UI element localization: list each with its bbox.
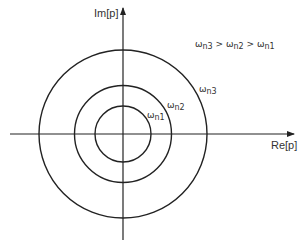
imaginary-axis-label: Im[p] bbox=[94, 7, 118, 19]
label-wn1: ωn1 bbox=[147, 110, 165, 122]
real-axis-label: Re[p] bbox=[271, 139, 297, 151]
pole-plane-diagram bbox=[0, 0, 301, 249]
label-wn3: ωn3 bbox=[199, 84, 217, 96]
label-wn2: ωn2 bbox=[167, 100, 185, 112]
frequency-relation: ωn3 > ωn2 > ωn1 bbox=[195, 39, 275, 51]
